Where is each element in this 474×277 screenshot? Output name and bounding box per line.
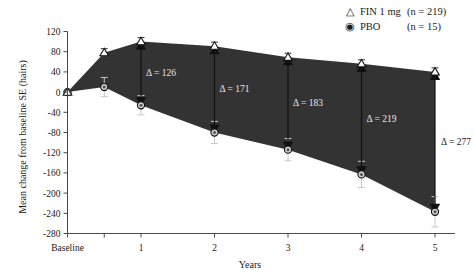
pbo-marker-core [140,104,143,107]
pbo-marker-core [287,148,290,151]
y-tick-label: -80 [48,128,61,138]
y-tick-label: -160 [43,168,61,178]
chart-plot-area: Δ = 126Δ = 171Δ = 183Δ = 219Δ = 277 [63,37,471,227]
legend-pbo-label: PBO [360,21,381,32]
legend-pbo-symbol: ◉ [345,21,355,32]
fin-marker [210,42,219,49]
legend-fin-label: FIN 1 mg [360,6,402,17]
x-tick-label: Baseline [51,243,84,253]
fin-marker [357,60,366,67]
fin-marker [284,53,293,60]
x-axis-title: Years [239,259,261,270]
y-tick-label: -200 [43,189,61,199]
delta-label: Δ = 126 [146,68,176,78]
y-tick-label: -240 [43,209,61,219]
pbo-marker-core [213,131,216,134]
y-tick-label: 80 [51,47,61,57]
y-tick-label: 0 [56,88,61,98]
y-tick-label: -40 [48,108,61,118]
legend-pbo-n: (n = 15) [407,21,441,33]
x-tick-label: 2 [212,243,217,253]
chart-figure: △ FIN 1 mg (n = 219) ◉ PBO (n = 15) Δ = … [0,0,474,277]
delta-label: Δ = 183 [293,98,323,108]
pbo-marker-core [360,173,363,176]
y-tick-label: 40 [51,67,61,77]
chart-legend: △ FIN 1 mg (n = 219) ◉ PBO (n = 15) [345,6,447,33]
y-tick-label: 120 [46,27,61,37]
legend-fin-n: (n = 219) [407,6,447,18]
chart-svg: △ FIN 1 mg (n = 219) ◉ PBO (n = 15) Δ = … [0,0,474,277]
delta-label: Δ = 219 [367,114,397,124]
x-tick-label: 5 [433,243,438,253]
y-axis-title: Mean change from baseline SE (hairs) [17,60,29,214]
pbo-marker-core [434,210,437,213]
series-band [68,42,436,212]
y-tick-label: -280 [43,229,61,239]
delta-label: Δ = 277 [441,137,471,147]
x-tick-label: 3 [286,243,291,253]
x-tick-label: 1 [139,243,144,253]
y-tick-label: -120 [43,148,61,158]
fin-marker [431,68,440,75]
legend-fin-symbol: △ [346,6,355,17]
pbo-marker-core [103,86,106,89]
x-tick-label: 4 [359,243,364,253]
delta-label: Δ = 171 [220,84,250,94]
fin-marker [137,37,146,44]
